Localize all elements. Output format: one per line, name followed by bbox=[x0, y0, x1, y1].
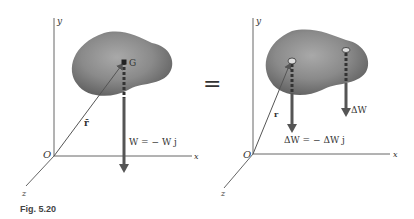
origin-label: O bbox=[43, 149, 51, 160]
element-weight-2-arrowhead-icon bbox=[341, 108, 351, 117]
element-weight-eq-label: ΔW = − ΔW j bbox=[284, 135, 345, 145]
right-panel: y x z O r ΔW ΔW = − ΔW j bbox=[220, 16, 398, 198]
z-axis-label: z bbox=[21, 189, 27, 198]
y-axis-label: y bbox=[255, 16, 262, 26]
element-weight-label: ΔW bbox=[351, 105, 367, 115]
figure-canvas: y x z O G r̄ W = − W j = y x z O r ΔW bbox=[0, 0, 414, 219]
figure-caption: Fig. 5.20 bbox=[20, 204, 56, 214]
x-axis-label: x bbox=[393, 150, 398, 159]
equals-sign: = bbox=[203, 71, 221, 96]
weight-label: W = − W j bbox=[129, 137, 177, 147]
mass-element-1 bbox=[288, 58, 296, 64]
y-axis-label: y bbox=[56, 16, 63, 26]
z-axis bbox=[26, 156, 54, 186]
position-vector-label: r bbox=[274, 109, 279, 119]
left-panel: y x z O G r̄ W = − W j bbox=[21, 16, 199, 198]
x-axis-label: x bbox=[194, 152, 199, 161]
weight-arrowhead-icon bbox=[119, 164, 129, 173]
center-of-gravity-label: G bbox=[129, 58, 136, 68]
center-of-gravity-point bbox=[122, 60, 127, 65]
origin-label: O bbox=[243, 149, 251, 160]
mass-element-2 bbox=[342, 48, 350, 53]
position-vector-label: r̄ bbox=[84, 118, 89, 128]
z-axis-label: z bbox=[220, 189, 226, 198]
element-weight-1-arrowhead-icon bbox=[287, 124, 297, 133]
